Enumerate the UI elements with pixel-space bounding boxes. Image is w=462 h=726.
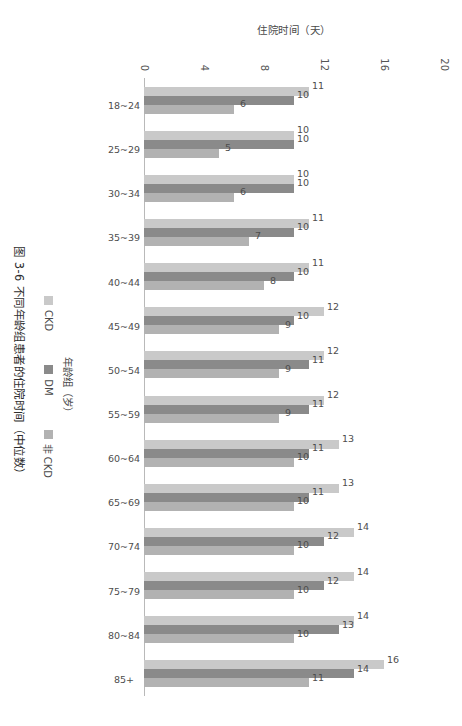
bar-value-label: 11 (312, 486, 324, 497)
rotated-figure-canvas: 住院时间（天） 048121620 1110618~241010525~2910… (0, 0, 462, 726)
bar-value-label: 10 (297, 221, 309, 232)
bar-value-label: 10 (297, 495, 309, 506)
bar: 14 (144, 616, 354, 625)
bar-value-label: 11 (312, 257, 324, 268)
legend-swatch-icon (44, 296, 53, 305)
bar: 13 (144, 625, 339, 634)
bar: 7 (144, 237, 249, 246)
bar: 6 (144, 193, 234, 202)
bar: 10 (144, 316, 294, 325)
bar: 14 (144, 572, 354, 581)
plot-area: 048121620 1110618~241010525~291010630~34… (144, 78, 444, 696)
bar-group: 1110735~39 (144, 210, 444, 254)
bar: 13 (144, 484, 339, 493)
bar: 10 (144, 184, 294, 193)
bar-group: 1010525~29 (144, 122, 444, 166)
bar-group: 14131080~84 (144, 608, 444, 652)
bar-value-label: 12 (327, 301, 339, 312)
x-tick-label: 30~34 (108, 188, 140, 199)
bar-value-label: 13 (342, 619, 354, 630)
x-tick-label: 75~79 (108, 586, 140, 597)
chart-legend: CKDDM非 CKD (41, 78, 56, 696)
bar-group: 1211950~54 (144, 343, 444, 387)
bar-value-label: 10 (297, 584, 309, 595)
bar: 13 (144, 440, 339, 449)
bar-value-label: 8 (270, 275, 276, 286)
bar-value-label: 14 (357, 610, 369, 621)
bar-value-label: 16 (387, 654, 399, 665)
bar-value-label: 10 (297, 539, 309, 550)
bar-value-label: 14 (357, 521, 369, 532)
y-tick-label: 12 (319, 58, 330, 71)
bar: 10 (144, 590, 294, 599)
bar-value-label: 13 (342, 433, 354, 444)
x-tick-label: 50~54 (108, 365, 140, 376)
bar-value-label: 10 (297, 177, 309, 188)
figure-caption: 图 3-6 不同年龄组患者的住院时间（中位数） (12, 0, 28, 726)
bar: 10 (144, 140, 294, 149)
bar-value-label: 11 (312, 398, 324, 409)
bar-value-label: 10 (297, 266, 309, 277)
bar-value-label: 7 (255, 230, 261, 241)
x-tick-label: 70~74 (108, 541, 140, 552)
bar: 9 (144, 325, 279, 334)
y-axis-title: 住院时间（天） (144, 22, 444, 38)
bar: 6 (144, 105, 234, 114)
bar-value-label: 9 (285, 319, 291, 330)
bar: 10 (144, 634, 294, 643)
bar-value-label: 5 (225, 142, 231, 153)
x-tick-label: 85+ (114, 674, 134, 685)
bar: 16 (144, 660, 384, 669)
legend-item: 非 CKD (41, 430, 56, 478)
bar: 11 (144, 493, 309, 502)
bar-group: 13111060~64 (144, 431, 444, 475)
y-tick-label: 20 (439, 58, 450, 71)
bar-value-label: 10 (297, 628, 309, 639)
bar: 10 (144, 175, 294, 184)
bar-value-label: 12 (327, 389, 339, 400)
bar-value-label: 14 (357, 663, 369, 674)
bar: 14 (144, 528, 354, 537)
x-tick-label: 80~84 (108, 630, 140, 641)
y-tick-label: 8 (259, 65, 270, 71)
bar-group: 1110618~24 (144, 78, 444, 122)
bar: 10 (144, 502, 294, 511)
bar: 11 (144, 87, 309, 96)
legend-swatch-icon (44, 365, 53, 374)
x-tick-label: 60~64 (108, 453, 140, 464)
bar-group: 16141185+ (144, 652, 444, 696)
legend-label: 非 CKD (41, 444, 56, 478)
bar: 9 (144, 414, 279, 423)
bar-value-label: 11 (312, 442, 324, 453)
bar-value-label: 10 (297, 89, 309, 100)
bar-value-label: 12 (327, 345, 339, 356)
bar-value-label: 11 (312, 672, 324, 683)
bar-value-label: 13 (342, 477, 354, 488)
bar: 11 (144, 678, 309, 687)
bar-value-label: 12 (327, 575, 339, 586)
bar-value-label: 10 (297, 133, 309, 144)
bar-value-label: 10 (297, 310, 309, 321)
y-tick-label: 0 (139, 65, 150, 71)
legend-label: DM (43, 379, 54, 395)
bar: 10 (144, 131, 294, 140)
bar: 5 (144, 149, 219, 158)
legend-item: DM (43, 365, 54, 395)
x-tick-label: 25~29 (108, 144, 140, 155)
bar-value-label: 10 (297, 451, 309, 462)
x-tick-label: 40~44 (108, 277, 140, 288)
y-tick-label: 16 (379, 58, 390, 71)
bar: 12 (144, 396, 324, 405)
legend-item: CKD (43, 296, 54, 331)
bar: 10 (144, 458, 294, 467)
x-tick-label: 18~24 (108, 100, 140, 111)
figure-page: 住院时间（天） 048121620 1110618~241010525~2910… (0, 0, 462, 726)
bar-group: 1211955~59 (144, 387, 444, 431)
legend-swatch-icon (44, 430, 53, 439)
bar-chart-figure: 住院时间（天） 048121620 1110618~241010525~2910… (0, 0, 462, 726)
bar-value-label: 6 (240, 98, 246, 109)
bar-value-label: 11 (312, 212, 324, 223)
bar: 9 (144, 369, 279, 378)
x-tick-label: 65~69 (108, 497, 140, 508)
bar-group: 14121070~74 (144, 519, 444, 563)
